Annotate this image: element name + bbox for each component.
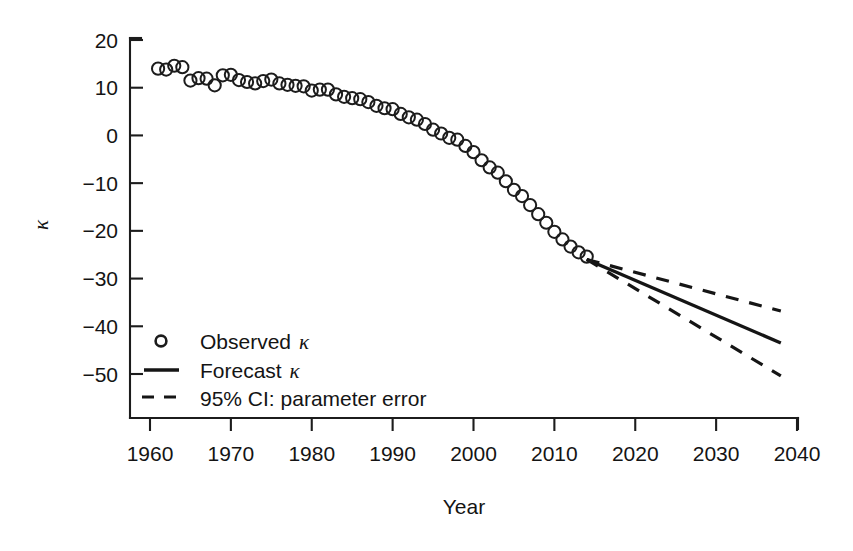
chart-figure: 20100−10−20−30−40−50 1960197019801990200… (0, 0, 853, 551)
y-axis-title: κ (29, 219, 53, 230)
observed-data-point (403, 111, 415, 123)
observed-data-point (451, 134, 463, 146)
chart-legend: Observed κ Forecast κ 95% CI: parameter … (142, 330, 426, 410)
y-tick-group (130, 40, 143, 374)
observed-data-point (475, 154, 487, 166)
observed-data-point (508, 184, 520, 196)
observed-data-point (459, 140, 471, 152)
x-tick-label: 2040 (774, 442, 821, 465)
x-axis-title: Year (443, 495, 485, 518)
x-tick-group (150, 418, 797, 431)
observed-data-point (201, 73, 213, 85)
x-tick-label: 1980 (288, 442, 335, 465)
legend-label-ci: 95% CI: parameter error (200, 387, 426, 410)
forecast-line (587, 259, 781, 343)
y-tick-label: 20 (95, 29, 118, 52)
observed-data-point (176, 61, 188, 73)
x-tick-label: 1960 (127, 442, 174, 465)
y-tick-label: −50 (82, 363, 118, 386)
y-tick-label-group: 20100−10−20−30−40−50 (82, 29, 118, 386)
legend-marker-observed-icon (156, 336, 167, 347)
ci-upper-line (587, 259, 781, 311)
legend-label-forecast: Forecast κ (200, 359, 301, 383)
ci-lower-line (587, 259, 781, 375)
y-tick-label: −30 (82, 267, 118, 290)
y-tick-label: −10 (82, 172, 118, 195)
observed-data-point (354, 93, 366, 105)
observed-data-point (556, 233, 568, 245)
legend-label-observed: Observed κ (200, 330, 310, 354)
x-tick-label: 2030 (693, 442, 740, 465)
x-tick-label-group: 196019701980199020002010202020302040 (127, 442, 821, 465)
ci-lower-line-group (587, 259, 781, 375)
y-tick-label: −20 (82, 219, 118, 242)
y-tick-label: −40 (82, 315, 118, 338)
kappa-forecast-chart: 20100−10−20−30−40−50 1960197019801990200… (0, 0, 853, 551)
x-tick-label: 2020 (612, 442, 659, 465)
x-tick-label: 1990 (369, 442, 416, 465)
observed-data-point (249, 77, 261, 89)
observed-data-point (548, 226, 560, 238)
ci-upper-line-group (587, 259, 781, 311)
y-tick-label: 0 (106, 124, 118, 147)
forecast-line-group (587, 259, 781, 343)
x-tick-label: 2010 (531, 442, 578, 465)
x-tick-label: 2000 (450, 442, 497, 465)
y-tick-label: 10 (95, 76, 118, 99)
observed-points-group (152, 60, 593, 263)
observed-data-point (184, 74, 196, 86)
x-tick-label: 1970 (208, 442, 255, 465)
